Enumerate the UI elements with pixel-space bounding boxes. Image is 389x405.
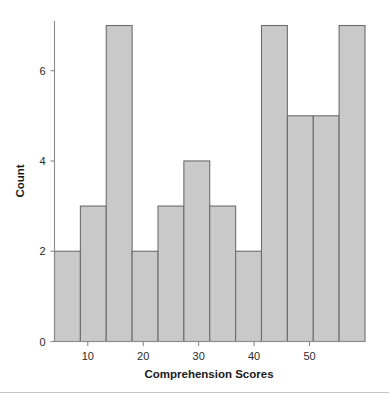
histogram-bar bbox=[55, 251, 81, 341]
x-tick-label: 40 bbox=[248, 350, 260, 362]
bar-series bbox=[55, 26, 366, 342]
x-tick-label: 20 bbox=[137, 350, 149, 362]
histogram-bar bbox=[184, 161, 210, 342]
y-tick-label: 6 bbox=[39, 65, 45, 77]
x-tick-label: 10 bbox=[82, 350, 94, 362]
histogram-bar bbox=[339, 26, 365, 342]
histogram-figure: 0246 1020304050 Comprehension Scores Cou… bbox=[0, 0, 389, 405]
y-axis-title: Count bbox=[14, 164, 26, 197]
y-tick-label: 4 bbox=[39, 155, 45, 167]
histogram-bar bbox=[132, 251, 158, 341]
histogram-bar bbox=[236, 251, 262, 341]
histogram-bar bbox=[313, 116, 339, 342]
x-tick-label: 30 bbox=[193, 350, 205, 362]
y-tick-label: 0 bbox=[39, 336, 45, 348]
histogram-bar bbox=[106, 26, 132, 342]
x-axis-ticks: 1020304050 bbox=[82, 342, 316, 362]
histogram-bar bbox=[210, 206, 236, 341]
x-tick-label: 50 bbox=[303, 350, 315, 362]
histogram-bar bbox=[80, 206, 106, 341]
y-tick-label: 2 bbox=[39, 245, 45, 257]
y-axis-ticks: 0246 bbox=[39, 65, 54, 348]
histogram-bar bbox=[158, 206, 184, 341]
x-axis-title: Comprehension Scores bbox=[144, 368, 273, 380]
histogram-svg: 0246 1020304050 Comprehension Scores Cou… bbox=[0, 0, 389, 405]
histogram-bar bbox=[261, 26, 287, 342]
histogram-bar bbox=[287, 116, 313, 342]
